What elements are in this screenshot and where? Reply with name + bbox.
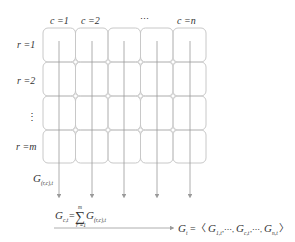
svg-text:c,t: c,t: [63, 217, 69, 223]
svg-text:t: t: [186, 230, 188, 236]
column-label-n: c =n: [177, 15, 196, 26]
row-label-1: r =1: [17, 39, 35, 50]
svg-text:〉: 〉: [279, 223, 289, 234]
row-label-ellipsis: ⋮: [27, 111, 37, 122]
svg-text:(r,c),t: (r,c),t: [41, 180, 53, 187]
grid-cell: [173, 96, 206, 130]
grid-cell: [173, 62, 206, 96]
svg-text:G: G: [33, 172, 41, 184]
svg-text:c,t: c,t: [244, 230, 250, 236]
column-label-2: c =2: [81, 15, 100, 26]
grid-matrix: [43, 28, 206, 163]
svg-text:G: G: [178, 222, 186, 234]
svg-text:G: G: [86, 209, 94, 221]
grid-cell: [173, 130, 206, 163]
result-vector-formula: G t = 〈 G 1,t ,⋯, G c,t ,⋯, G n,t 〉: [178, 222, 289, 236]
svg-text:G: G: [55, 209, 63, 221]
row-label-2: r =2: [17, 75, 35, 86]
svg-text:G: G: [208, 222, 216, 234]
svg-text:m: m: [78, 204, 82, 210]
row-label-m: r =m: [16, 141, 36, 152]
flow-label: G (r,c),t: [33, 172, 53, 187]
svg-text:r =1: r =1: [76, 222, 86, 228]
column-label-ellipsis: ⋯: [140, 14, 149, 24]
svg-text:,⋯,: ,⋯,: [222, 225, 234, 234]
column-flow-arrows: [59, 41, 190, 196]
column-sum-formula: G c,t = ∑ m r =1 G (r,c),t: [55, 204, 106, 228]
svg-text:G: G: [236, 222, 244, 234]
column-label-1: c =1: [50, 15, 69, 26]
svg-text:〈: 〈: [196, 223, 206, 234]
svg-text:(r,c),t: (r,c),t: [94, 217, 106, 224]
svg-text:,⋯,: ,⋯,: [250, 225, 262, 234]
svg-text:G: G: [264, 222, 272, 234]
grid-cell: [173, 28, 206, 62]
svg-text:n,t: n,t: [272, 230, 278, 236]
grid-aggregation-diagram: c =1 c =2 ⋯ c =n r =1 r =2 ⋮ r =m G (r,c…: [0, 0, 295, 242]
